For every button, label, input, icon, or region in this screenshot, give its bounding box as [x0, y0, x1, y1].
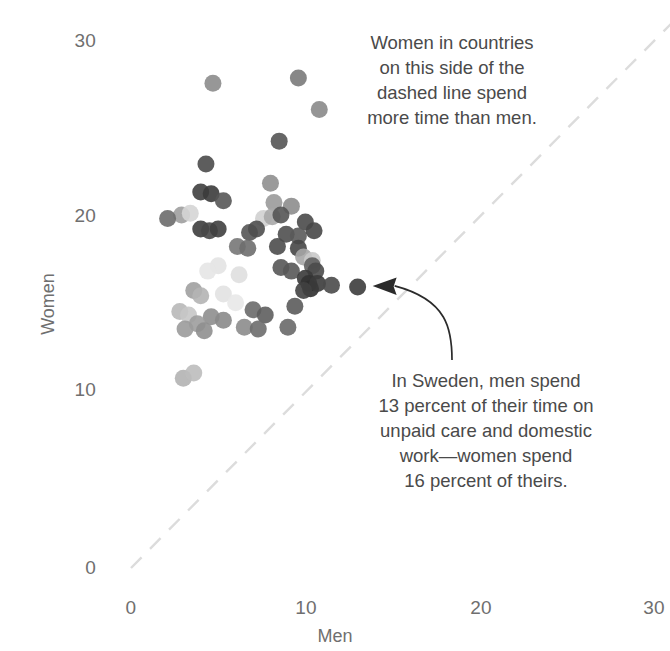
data-point	[286, 298, 303, 315]
x-tick-10: 10	[295, 597, 317, 619]
scatter-chart: 30 20 10 0 0 10 20 30 Men Women Women in…	[0, 0, 670, 651]
data-point	[290, 69, 307, 86]
data-point	[311, 101, 328, 118]
data-point	[215, 312, 232, 329]
sweden-callout-arrow	[373, 277, 452, 360]
data-point	[182, 205, 199, 222]
plot-canvas	[0, 0, 670, 651]
data-point	[197, 155, 214, 172]
y-tick-20: 20	[0, 205, 96, 227]
data-point	[199, 263, 216, 280]
data-point	[159, 210, 176, 227]
data-point	[215, 192, 232, 209]
data-point	[248, 220, 265, 237]
data-point	[192, 287, 209, 304]
x-axis-title: Men	[317, 626, 352, 647]
x-tick-20: 20	[470, 597, 492, 619]
y-tick-0: 0	[0, 557, 96, 579]
data-point	[306, 222, 323, 239]
data-point	[196, 322, 213, 339]
data-point	[271, 133, 288, 150]
data-point	[269, 238, 286, 255]
data-point	[177, 321, 194, 338]
data-point	[185, 365, 202, 382]
data-points-group	[159, 69, 366, 386]
data-point	[204, 75, 221, 92]
callout-curve	[395, 286, 452, 360]
y-tick-30: 30	[0, 30, 96, 52]
data-point	[227, 294, 244, 311]
data-point	[250, 321, 267, 338]
y-tick-10: 10	[0, 379, 96, 401]
data-point	[210, 220, 227, 237]
data-point	[295, 282, 312, 299]
annotation-above-line: Women in countries on this side of the d…	[352, 30, 552, 130]
data-point	[262, 175, 279, 192]
x-tick-30: 30	[643, 597, 665, 619]
data-point	[239, 240, 256, 257]
x-tick-0: 0	[126, 597, 137, 619]
callout-arrowhead	[373, 277, 397, 295]
y-axis-title: Women	[38, 273, 59, 335]
data-point	[272, 206, 289, 223]
data-point	[349, 278, 366, 295]
data-point	[231, 266, 248, 283]
annotation-sweden: In Sweden, men spend 13 percent of their…	[372, 368, 600, 493]
data-point	[323, 277, 340, 294]
data-point	[279, 319, 296, 336]
